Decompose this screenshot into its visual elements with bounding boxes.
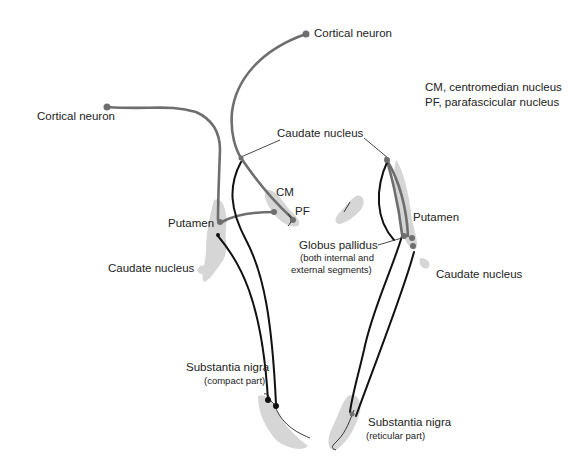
center-nucleus-region (336, 196, 364, 224)
substantia-nigra-compact-region (258, 395, 308, 449)
caudate-top-leader-line (241, 140, 280, 157)
caudate-right-node (384, 157, 390, 163)
cortical-neuron-top-node (303, 31, 310, 38)
cortical-neuron-left-label: Cortical neuron (37, 110, 115, 123)
pf-label: PF (295, 205, 310, 218)
caudate-nucleus-top-label: Caudate nucleus (277, 127, 363, 140)
caudate-nucleus-left-label: Caudate nucleus (108, 262, 194, 275)
globus-pallidus-label: Globus pallidus (299, 239, 378, 252)
cm-to-putamen-pathway (222, 212, 274, 222)
legend-line-pf: PF, parafascicular nucleus (425, 95, 562, 110)
putamen-black-node (216, 233, 220, 237)
caudate-right-region (420, 258, 430, 269)
caudate-right-to-gp-pathway (379, 160, 394, 240)
cortical-left-to-putamen-pathway (107, 107, 220, 220)
cortical-neuron-top-label: Cortical neuron (314, 27, 392, 40)
globus-pallidus-leader-line (378, 238, 402, 245)
putamen-right-node-b (409, 235, 415, 241)
putamen-right-node-a (401, 233, 407, 239)
caudate-node (239, 156, 244, 161)
caudate-top-right-leader-line (364, 138, 388, 158)
substantia-nigra-compact-sub-label: (compact part) (204, 376, 265, 387)
basal-ganglia-diagram (0, 0, 578, 472)
caudate-nucleus-right-label: Caudate nucleus (436, 268, 522, 281)
sn-compact-node-a (265, 397, 271, 403)
abbreviation-legend: CM, centromedian nucleus PF, parafascicu… (425, 80, 562, 110)
globus-pallidus-sub1-label: (both internal and (300, 253, 374, 264)
nodes (104, 31, 417, 417)
gp-node (410, 243, 416, 249)
snr-node (350, 412, 355, 417)
substantia-nigra-reticular-region (329, 395, 361, 450)
putamen-right-label: Putamen (413, 211, 459, 224)
cm-node (271, 209, 277, 215)
globus-pallidus-sub2-label: external segments) (291, 265, 372, 276)
substantia-nigra-compact-label: Substantia nigra (186, 361, 269, 374)
substantia-nigra-reticular-sub-label: (reticular part) (366, 431, 425, 442)
sn-compact-node-b (273, 403, 279, 409)
cm-label: CM (276, 186, 294, 199)
gp-to-snr-pathway-b (356, 252, 414, 416)
putamen-left-label: Putamen (168, 217, 214, 230)
legend-line-cm: CM, centromedian nucleus (425, 80, 562, 95)
caudate-left-region (197, 265, 208, 274)
substantia-nigra-reticular-label: Substantia nigra (368, 416, 451, 429)
brain-regions (197, 160, 430, 450)
putamen-node (217, 219, 223, 225)
